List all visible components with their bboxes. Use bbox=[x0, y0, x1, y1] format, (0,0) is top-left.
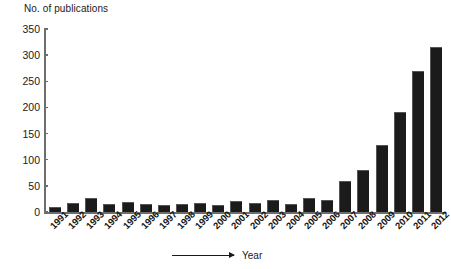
x-tick-cell: 1998 bbox=[173, 214, 191, 248]
bar-cell bbox=[391, 29, 409, 212]
x-tick-cell: 2012 bbox=[427, 214, 445, 248]
plot-area: 050100150200250300350 199119921993199419… bbox=[0, 0, 451, 269]
x-tick-cell: 2004 bbox=[282, 214, 300, 248]
bar-cell bbox=[318, 29, 336, 212]
x-axis-tick-labels: 1991199219931994199519961997199819992000… bbox=[46, 214, 445, 248]
bar-cell bbox=[137, 29, 155, 212]
y-axis-tick-label: 200 bbox=[0, 102, 40, 112]
bar-cell bbox=[46, 29, 64, 212]
bar bbox=[430, 47, 442, 212]
x-tick-cell: 1991 bbox=[46, 214, 64, 248]
bar-cell bbox=[64, 29, 82, 212]
bar bbox=[339, 181, 351, 212]
x-tick-cell: 1992 bbox=[64, 214, 82, 248]
bar-cell bbox=[336, 29, 354, 212]
bar-cell bbox=[209, 29, 227, 212]
bar-series bbox=[46, 29, 445, 212]
bar-cell bbox=[173, 29, 191, 212]
bar bbox=[394, 112, 406, 212]
x-tick-cell: 2007 bbox=[336, 214, 354, 248]
bar-cell bbox=[354, 29, 372, 212]
bar-cell bbox=[227, 29, 245, 212]
y-axis-tick-label: 100 bbox=[0, 155, 40, 165]
bar bbox=[376, 145, 388, 212]
x-tick-cell: 2009 bbox=[373, 214, 391, 248]
y-axis-tick-label: 150 bbox=[0, 129, 40, 139]
bar-cell bbox=[119, 29, 137, 212]
bar-cell bbox=[282, 29, 300, 212]
y-axis-tick-label: 50 bbox=[0, 181, 40, 191]
x-tick-cell: 1999 bbox=[191, 214, 209, 248]
bar-cell bbox=[246, 29, 264, 212]
x-tick-cell: 1995 bbox=[119, 214, 137, 248]
y-axis-tick-label: 300 bbox=[0, 50, 40, 60]
arrow-head-icon bbox=[229, 252, 235, 258]
y-axis-tick-label: 0 bbox=[0, 207, 40, 217]
x-tick-cell: 2011 bbox=[409, 214, 427, 248]
x-tick-cell: 2002 bbox=[246, 214, 264, 248]
x-tick-cell: 2003 bbox=[264, 214, 282, 248]
x-tick-cell: 2008 bbox=[354, 214, 372, 248]
x-axis-caption: Year bbox=[172, 250, 262, 261]
y-axis-tick-label: 350 bbox=[0, 24, 40, 34]
bar-cell bbox=[300, 29, 318, 212]
bar-cell bbox=[100, 29, 118, 212]
bar-cell bbox=[373, 29, 391, 212]
bar-cell bbox=[82, 29, 100, 212]
chart-figure: No. of publications 05010015020025030035… bbox=[0, 0, 451, 269]
bar-cell bbox=[191, 29, 209, 212]
bar bbox=[412, 71, 424, 212]
x-tick-cell: 2001 bbox=[227, 214, 245, 248]
x-tick-cell: 2000 bbox=[209, 214, 227, 248]
bar-cell bbox=[155, 29, 173, 212]
x-tick-cell: 1994 bbox=[100, 214, 118, 248]
x-tick-cell: 1993 bbox=[82, 214, 100, 248]
x-tick-cell: 1996 bbox=[137, 214, 155, 248]
bar-cell bbox=[427, 29, 445, 212]
arrow-icon bbox=[172, 255, 234, 256]
x-axis-caption-label: Year bbox=[242, 250, 262, 261]
x-tick-cell: 1997 bbox=[155, 214, 173, 248]
bar bbox=[357, 170, 369, 212]
x-tick-cell: 2006 bbox=[318, 214, 336, 248]
y-axis-tick-label: 250 bbox=[0, 76, 40, 86]
bar-cell bbox=[264, 29, 282, 212]
x-tick-cell: 2005 bbox=[300, 214, 318, 248]
bar-cell bbox=[409, 29, 427, 212]
x-tick-cell: 2010 bbox=[391, 214, 409, 248]
